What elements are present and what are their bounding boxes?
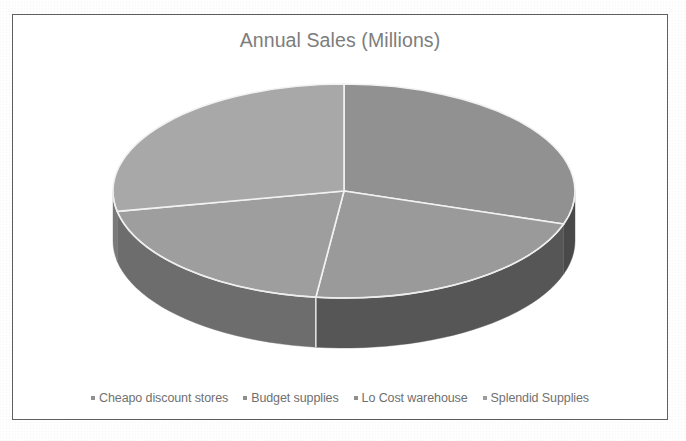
legend-item[interactable]: Lo Cost warehouse xyxy=(354,391,468,405)
legend-item-label: Splendid Supplies xyxy=(491,391,589,405)
legend-item[interactable]: Cheapo discount stores xyxy=(91,391,228,405)
pie-chart-svg xyxy=(13,15,669,421)
pie-slices-group xyxy=(113,84,575,348)
screenshot-root: Annual Sales (Millions) Cheapo discount … xyxy=(0,0,686,441)
legend-swatch-icon xyxy=(243,396,247,400)
chart-frame: Annual Sales (Millions) Cheapo discount … xyxy=(12,14,668,420)
chart-legend: Cheapo discount storesBudget suppliesLo … xyxy=(13,391,667,405)
legend-item[interactable]: Splendid Supplies xyxy=(483,391,589,405)
legend-swatch-icon xyxy=(354,396,358,400)
legend-item-label: Lo Cost warehouse xyxy=(362,391,468,405)
pie-slice-splendid-supplies[interactable] xyxy=(113,84,344,211)
pie-chart-plot-area xyxy=(13,15,669,421)
legend-swatch-icon xyxy=(91,396,95,400)
legend-item[interactable]: Budget supplies xyxy=(243,391,338,405)
legend-item-label: Budget supplies xyxy=(251,391,338,405)
legend-item-label: Cheapo discount stores xyxy=(99,391,228,405)
legend-swatch-icon xyxy=(483,396,487,400)
